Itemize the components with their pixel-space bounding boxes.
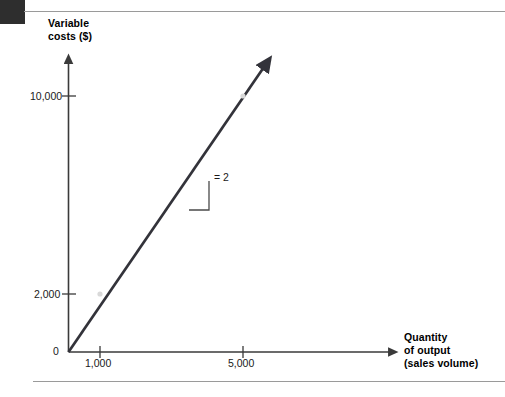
x-tick-label-5000: 5,000 <box>228 357 254 369</box>
variable-cost-line <box>69 67 265 352</box>
data-point-1000-2000 <box>97 291 102 296</box>
y-axis-title-line-2: costs ($) <box>48 30 92 43</box>
x-axis-title: Quantity of output (sales volume) <box>404 331 478 370</box>
slope-triangle <box>189 181 209 210</box>
y-axis-title-line-1: Variable <box>48 17 92 30</box>
x-axis-title-line-1: Quantity <box>404 331 478 344</box>
slope-annotation-label: = 2 <box>214 171 229 183</box>
x-axis-title-line-2: of output <box>404 344 478 357</box>
y-tick-label-10000: 10,000 <box>30 90 62 102</box>
x-tick-label-1000: 1,000 <box>85 357 111 369</box>
y-axis-title: Variable costs ($) <box>48 17 92 43</box>
y-tick-label-2000: 2,000 <box>34 288 60 300</box>
figure-canvas: Variable costs ($) Quantity of output (s… <box>0 0 505 397</box>
origin-label: 0 <box>53 345 59 357</box>
x-axis-title-line-3: (sales volume) <box>404 357 478 370</box>
data-point-5000-10000 <box>240 93 245 98</box>
